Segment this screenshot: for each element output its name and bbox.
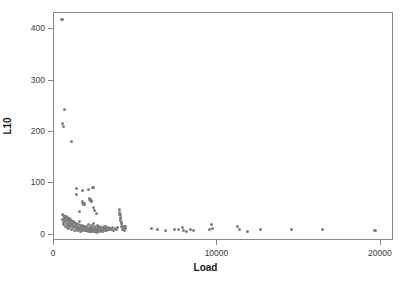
data-point bbox=[246, 230, 249, 233]
data-point bbox=[238, 228, 241, 231]
y-tick-mark bbox=[48, 131, 53, 132]
data-point bbox=[321, 228, 324, 231]
data-point bbox=[192, 229, 195, 232]
data-point bbox=[124, 227, 127, 230]
data-point bbox=[82, 202, 85, 205]
data-point bbox=[91, 186, 94, 189]
y-tick-label: 0 bbox=[13, 229, 45, 239]
data-point bbox=[116, 226, 119, 229]
y-tick-mark bbox=[48, 28, 53, 29]
x-tick-mark bbox=[216, 240, 217, 245]
y-tick-label: 200 bbox=[13, 126, 45, 136]
data-point bbox=[156, 228, 159, 231]
data-point bbox=[164, 229, 167, 232]
data-point bbox=[290, 228, 293, 231]
data-point bbox=[259, 228, 262, 231]
data-point bbox=[150, 227, 153, 230]
data-point bbox=[62, 125, 65, 128]
data-point bbox=[185, 230, 188, 233]
x-tick-label: 20000 bbox=[368, 248, 392, 258]
data-point bbox=[75, 193, 78, 196]
data-point bbox=[87, 188, 90, 191]
data-point bbox=[90, 199, 93, 202]
data-point bbox=[373, 229, 376, 232]
data-point bbox=[177, 228, 180, 231]
data-point bbox=[63, 108, 66, 111]
x-tick-mark bbox=[53, 240, 54, 245]
y-axis-label: L10 bbox=[2, 117, 13, 134]
data-point bbox=[78, 220, 81, 223]
data-point bbox=[210, 223, 213, 226]
x-axis-label: Load bbox=[0, 262, 411, 273]
data-point bbox=[105, 228, 108, 231]
x-tick-label: 0 bbox=[51, 248, 56, 258]
data-point bbox=[173, 228, 176, 231]
data-point bbox=[81, 189, 84, 192]
data-points-layer bbox=[0, 0, 411, 287]
data-point bbox=[60, 18, 63, 21]
data-point bbox=[78, 210, 81, 213]
data-point bbox=[211, 227, 214, 230]
y-tick-label: 100 bbox=[13, 177, 45, 187]
y-tick-label: 400 bbox=[13, 23, 45, 33]
y-tick-mark bbox=[48, 234, 53, 235]
y-tick-label: 300 bbox=[13, 75, 45, 85]
data-point bbox=[95, 212, 98, 215]
y-tick-mark bbox=[48, 182, 53, 183]
x-tick-label: 10000 bbox=[205, 248, 229, 258]
data-point bbox=[75, 187, 78, 190]
scatter-chart: 010000200000100200300400 Load L10 bbox=[0, 0, 411, 287]
data-point bbox=[70, 140, 73, 143]
y-tick-mark bbox=[48, 80, 53, 81]
x-tick-mark bbox=[380, 240, 381, 245]
